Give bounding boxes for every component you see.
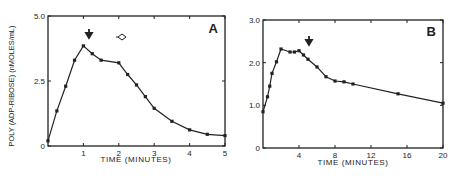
x-tick-label: 5 [223,149,228,158]
data-point [144,95,147,98]
panel-label-b: B [427,24,436,39]
x-tick-label: 20 [439,151,448,160]
axis-ticks-b: 4812162001.02.03.0 [249,16,448,160]
x-tick-label: 4 [187,149,192,158]
data-point [206,133,209,136]
data-point [351,82,354,85]
y-tick-label: 0 [256,144,261,153]
data-point [261,110,264,113]
data-point [126,73,129,76]
open-diamond-arrow-icon [116,34,126,40]
data-point [46,139,49,142]
data-point [342,80,345,83]
data-point [441,102,444,105]
data-point [315,65,318,68]
data-point [91,52,94,55]
data-point [302,53,305,56]
data-point [117,61,120,64]
data-point [333,79,336,82]
y-tick-label: 2.5 [34,77,46,86]
data-point [135,83,138,86]
y-tick-label: 1.0 [249,101,261,110]
x-tick-label: 16 [403,151,412,160]
data-point [82,44,85,47]
data-point [170,120,173,123]
data-point [55,109,58,112]
y-tick-label: 2.0 [249,59,261,68]
data-point [188,128,191,131]
data-point [153,107,156,110]
data-series-a [46,44,226,142]
data-point [288,50,291,53]
data-point [100,59,103,62]
data-point [396,92,399,95]
data-point [324,75,327,78]
data-point [223,134,226,137]
y-tick-label: 5.0 [34,12,46,21]
data-series-b [261,47,444,113]
y-tick-label: 3.0 [249,16,261,25]
y-axis-label: POLY (ADP-RIBOSE) (nMOLES/mL) [7,26,16,147]
data-point [279,47,282,50]
data-point [270,72,273,75]
axis-ticks-a: 1234502.55.0 [34,12,228,158]
chart-panel-a: A 1234502.55.0 TIME (MINUTES) POLY (ADP-… [7,12,228,164]
panel-label-a: A [209,21,219,36]
plot-frame-a [48,16,225,146]
data-point [297,49,300,52]
data-point [275,60,278,63]
x-tick-label: 4 [297,151,302,160]
data-point [306,58,309,61]
data-point [64,85,67,88]
figure: A 1234502.55.0 TIME (MINUTES) POLY (ADP-… [0,0,462,182]
filled-arrow-down-icon [306,36,312,45]
data-point [73,59,76,62]
data-point [293,50,296,53]
filled-arrow-down-icon [86,29,92,38]
chart-panel-b: B 4812162001.02.03.0 TIME (MINUTES) [249,16,448,167]
y-tick-label: 0 [41,142,46,151]
x-axis-label-b: TIME (MINUTES) [317,158,388,167]
x-tick-label: 1 [81,149,86,158]
data-point [268,85,271,88]
x-axis-label-a: TIME (MINUTES) [100,155,171,164]
data-point [266,95,269,98]
